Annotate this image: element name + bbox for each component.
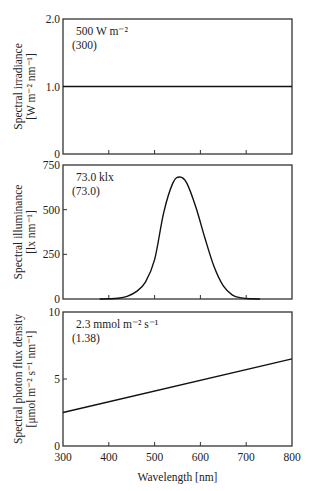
panel-spectral-illuminance: 025050075073.0 klx(73.0)Spectral illumin… <box>12 159 292 305</box>
integrated-value-parenthetical: (1.38) <box>72 332 100 345</box>
integrated-value-parenthetical: (73.0) <box>72 185 100 198</box>
figure: 01.02.0500 W m⁻²(300)Spectral irradiance… <box>0 0 313 491</box>
y-tick-label: 0 <box>54 293 60 305</box>
panel-spectral-irradiance: 01.02.0500 W m⁻²(300)Spectral irradiance… <box>12 13 292 160</box>
y-tick-label: 2.0 <box>46 13 61 25</box>
y-tick-label: 10 <box>49 306 61 318</box>
y-axis-label: [lx nm⁻¹] <box>25 210 37 254</box>
x-tick-label: 300 <box>54 451 72 463</box>
x-tick-label: 800 <box>283 451 301 463</box>
panel-spectral-photon-flux-density: 05102.3 mmol m⁻² s⁻¹(1.38)Spectral photo… <box>12 306 292 452</box>
x-tick-label: 400 <box>100 451 118 463</box>
x-tick-label: 500 <box>146 451 164 463</box>
y-tick-label: 750 <box>43 159 61 171</box>
y-axis-label: Spectral irradiance <box>12 43 25 130</box>
y-tick-label: 1.0 <box>46 81 61 93</box>
y-tick-label: 5 <box>54 373 60 385</box>
y-axis-label: [μmol m⁻² s⁻¹ nm⁻¹] <box>25 331 38 428</box>
y-axis-label: [W m⁻² nm⁻¹] <box>25 53 37 120</box>
y-tick-label: 250 <box>43 248 61 260</box>
x-tick-label: 700 <box>238 451 256 463</box>
data-curve <box>100 177 260 299</box>
x-tick-label: 600 <box>192 451 210 463</box>
integrated-value-label: 73.0 klx <box>76 171 114 183</box>
integrated-value-label: 500 W m⁻² <box>76 25 128 37</box>
integrated-value-label: 2.3 mmol m⁻² s⁻¹ <box>76 318 159 330</box>
y-axis-label: Spectral photon flux density <box>12 314 25 444</box>
integrated-value-parenthetical: (300) <box>72 39 97 52</box>
y-tick-label: 500 <box>43 204 61 216</box>
x-axis: 300400500600700800Wavelength [nm] <box>54 451 301 484</box>
x-axis-label: Wavelength [nm] <box>138 471 218 484</box>
y-axis-label: Spectral illuminance <box>12 185 25 280</box>
data-curve <box>63 359 292 413</box>
